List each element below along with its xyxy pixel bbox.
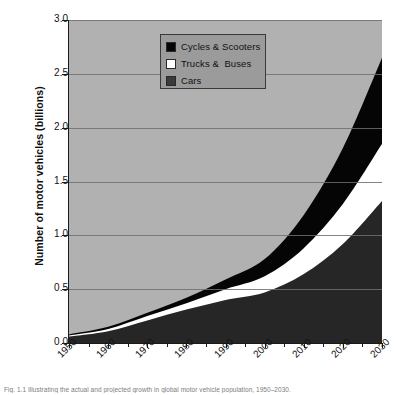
- gridline: [69, 128, 382, 129]
- y-tick-mark: [62, 20, 68, 21]
- y-tick-mark: [62, 182, 68, 183]
- chart-legend: Cycles & Scooters Trucks & Buses Cars: [160, 34, 266, 89]
- x-tick-mark-minor: [362, 343, 363, 347]
- gridline: [69, 289, 382, 290]
- y-tick-mark: [62, 343, 68, 344]
- legend-item-trucks-buses[interactable]: Trucks & Buses: [161, 55, 265, 72]
- y-tick-label: 2.0: [34, 121, 68, 132]
- y-tick-label: 3.0: [34, 13, 68, 24]
- legend-label-cycles-scooters: Cycles & Scooters: [181, 41, 260, 52]
- x-tick-mark-minor: [89, 343, 90, 347]
- figure-caption: Fig. 1.1 Illustrating the actual and pro…: [4, 386, 396, 393]
- legend-swatch-cycles-scooters: [166, 42, 176, 52]
- legend-swatch-cars: [166, 76, 176, 86]
- legend-item-cycles-scooters[interactable]: Cycles & Scooters: [161, 38, 265, 55]
- y-tick-mark: [62, 74, 68, 75]
- x-tick-mark-minor: [167, 343, 168, 347]
- chart-figure: Number of motor vehicles (billions) 0.00…: [0, 0, 399, 395]
- x-tick-mark-minor: [284, 343, 285, 347]
- x-tick-mark-minor: [128, 343, 129, 347]
- x-tick-mark-minor: [323, 343, 324, 347]
- y-axis-line: [68, 20, 69, 344]
- gridline: [69, 20, 382, 21]
- legend-label-trucks-buses: Trucks & Buses: [181, 58, 251, 69]
- y-tick-mark: [62, 128, 68, 129]
- legend-item-cars[interactable]: Cars: [161, 72, 265, 89]
- y-tick-label: 1.5: [34, 175, 68, 186]
- y-tick-label: 2.5: [34, 67, 68, 78]
- gridline: [69, 182, 382, 183]
- legend-label-cars: Cars: [181, 75, 201, 86]
- y-tick-label: 0.5: [34, 282, 68, 293]
- gridline: [69, 235, 382, 236]
- x-tick-mark-minor: [245, 343, 246, 347]
- x-tick-mark-minor: [206, 343, 207, 347]
- y-tick-mark: [62, 235, 68, 236]
- y-tick-mark: [62, 289, 68, 290]
- y-axis-ticks: 0.00.51.01.52.02.53.0: [20, 0, 68, 395]
- y-tick-label: 1.0: [34, 228, 68, 239]
- legend-swatch-trucks-buses: [166, 59, 176, 69]
